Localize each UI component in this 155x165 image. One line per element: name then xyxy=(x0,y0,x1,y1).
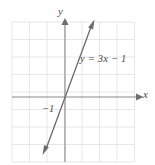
y-axis-label: y xyxy=(58,6,63,17)
graph-figure: y x y = 3x − 1 −1 xyxy=(0,0,155,165)
x-axis-label: x xyxy=(143,89,148,100)
y-axis-arrowhead xyxy=(61,18,68,25)
x-axis xyxy=(12,93,144,100)
line-arrowhead-top xyxy=(88,20,94,30)
grid-lines xyxy=(12,22,135,162)
coordinate-plane xyxy=(0,0,155,165)
equation-annotation: y = 3x − 1 xyxy=(80,54,127,65)
y-intercept-annotation: −1 xyxy=(42,104,54,115)
line-arrowhead-bottom xyxy=(43,145,49,155)
